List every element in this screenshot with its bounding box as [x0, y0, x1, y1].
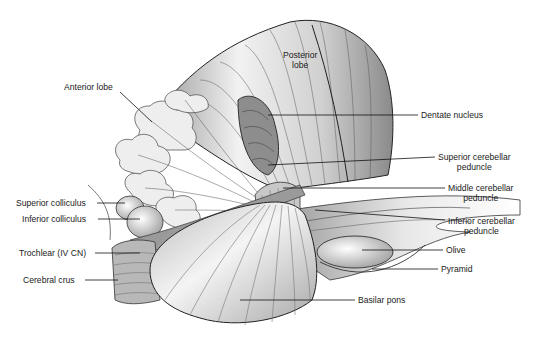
label-superior-colliculus: Superior colliculus: [16, 198, 86, 208]
label-inferior-cerebellar-peduncle: Inferior cerebellar peduncle: [448, 216, 515, 236]
medulla: [290, 196, 520, 280]
midbrain-outline: [88, 185, 110, 240]
label-cerebral-crus: Cerebral crus: [23, 275, 75, 285]
label-trochlear: Trochlear (IV CN): [19, 248, 86, 258]
label-superior-cerebellar-peduncle: Superior cerebellar peduncle: [438, 152, 511, 172]
label-pyramid: Pyramid: [441, 264, 473, 274]
label-inferior-colliculus: Inferior colliculus: [22, 214, 86, 224]
label-olive: Olive: [446, 245, 466, 255]
label-basilar-pons: Basilar pons: [358, 295, 405, 305]
olive: [317, 236, 393, 268]
label-dentate-nucleus: Dentate nucleus: [421, 110, 483, 120]
label-middle-cerebellar-peduncle: Middle cerebellar peduncle: [448, 183, 513, 203]
label-posterior-lobe: Posterior lobe: [283, 50, 317, 70]
label-anterior-lobe: Anterior lobe: [64, 82, 113, 92]
